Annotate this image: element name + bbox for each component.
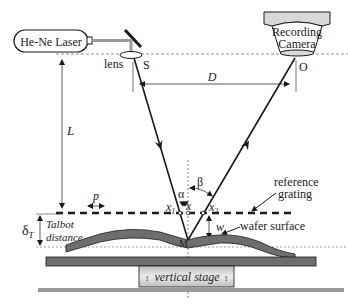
- wafer-label: wafer surface: [240, 219, 305, 233]
- svg-text:↕: ↕: [145, 274, 149, 283]
- angle-beta: β: [197, 175, 203, 189]
- laser-label: He-Ne Laser: [20, 35, 82, 49]
- stage-label: vertical stage: [155, 270, 221, 284]
- base-plate: [38, 288, 344, 292]
- distance-L-label: L: [66, 123, 74, 138]
- he-ne-laser: He-Ne Laser: [14, 30, 92, 52]
- mirror-point-label: M: [179, 238, 188, 249]
- talbot-label-line1: Talbot: [46, 218, 75, 230]
- lens-label: lens: [104, 57, 124, 71]
- observer-point-label: O: [299, 60, 308, 74]
- point-x1: x1: [165, 200, 175, 216]
- source-point-label: S: [143, 58, 150, 72]
- svg-text:↕: ↕: [224, 274, 228, 283]
- talbot-setup-diagram: He-Ne Laser lens S Recording Camera O D …: [0, 0, 348, 307]
- wafer-chuck: [46, 257, 316, 266]
- mirror-icon: [125, 30, 141, 47]
- talbot-symbol: δT: [22, 223, 35, 240]
- deflection-label: w: [216, 220, 224, 234]
- vertical-stage: ↕ ↕ vertical stage: [139, 266, 234, 287]
- angle-alpha: α: [178, 187, 185, 201]
- point-x2: x2: [208, 200, 218, 216]
- distance-D-label: D: [207, 70, 217, 84]
- camera-label-line2: Camera: [278, 37, 316, 51]
- recording-camera: Recording Camera: [264, 12, 330, 56]
- grating-label-line2: grating: [278, 187, 312, 201]
- pitch-label: p: [92, 189, 99, 203]
- point-x: x: [185, 199, 192, 213]
